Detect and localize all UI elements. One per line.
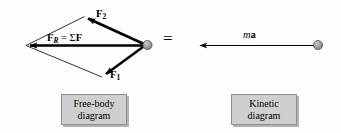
caption-kd-line2: diagram [232, 110, 296, 122]
vector-f2-arrow [88, 19, 145, 45]
label-inertia-vector: ma [243, 30, 256, 41]
caption-kinetic-diagram: Kinetic diagram [231, 94, 297, 125]
caption-fbd-line1: Free-body [62, 98, 126, 110]
label-acceleration-symbol: a [251, 29, 256, 40]
particle-dot-kinetic [313, 40, 322, 49]
label-f1-subscript: 1 [116, 73, 120, 82]
label-resultant-force: FR = ΣF [47, 33, 82, 45]
caption-fbd-line2: diagram [62, 110, 126, 122]
particle-dot-free-body [143, 40, 152, 49]
label-sum-force-symbol: F [76, 32, 82, 43]
label-force-1: F1 [110, 70, 120, 82]
physics-figure: FR = ΣF F2 F1 = ma Free-body diagram Kin… [0, 0, 341, 133]
caption-free-body-diagram: Free-body diagram [61, 94, 127, 125]
label-force-2: F2 [96, 9, 106, 21]
parallelogram-construction-lines [26, 17, 102, 78]
label-f2-subscript: 2 [102, 12, 106, 21]
construction-line-lower [26, 46, 102, 78]
force-vectors [30, 19, 145, 75]
caption-kd-line1: Kinetic [232, 98, 296, 110]
equals-sign: = [163, 30, 173, 47]
label-mass-symbol: m [243, 29, 251, 40]
